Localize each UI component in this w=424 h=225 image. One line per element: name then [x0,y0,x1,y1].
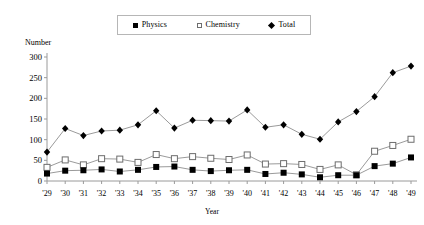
data-point [62,168,68,174]
x-tick-label: '47 [370,189,379,198]
x-tick-label: '33 [115,189,124,198]
x-tick-label: '45 [333,189,342,198]
data-point [190,167,196,173]
x-axis-ticks: '29'30'31'32'33'34'35'36'37'38'39'40'41'… [42,181,415,198]
y-tick-label: 200 [29,93,42,103]
x-tick-label: '42 [279,189,288,198]
data-point [44,164,50,170]
data-point [390,142,396,148]
x-tick-label: '41 [261,189,270,198]
y-tick-label: 100 [29,135,42,145]
data-point [80,162,86,168]
data-point [281,170,287,176]
x-tick-label: '37 [188,189,197,198]
data-point [171,156,177,162]
data-point [281,161,287,167]
data-point [390,161,396,167]
data-point [62,157,68,163]
x-tick-label: '39 [224,189,233,198]
data-point [317,166,323,172]
y-tick-label: 150 [29,114,42,124]
x-tick-label: '40 [242,189,251,198]
x-tick-label: '44 [315,189,324,198]
data-point [99,166,105,172]
x-tick-label: '48 [388,189,397,198]
data-point [208,168,214,174]
x-tick-label: '29 [42,189,51,198]
data-point [44,171,50,177]
y-tick-label: 300 [29,52,42,62]
data-point [153,164,159,170]
x-tick-label: '38 [206,189,215,198]
x-tick-label: '36 [170,189,179,198]
data-point [99,156,105,162]
y-tick-label: 250 [29,73,42,83]
data-point [408,154,414,160]
chart-container: Physics Chemistry Total Number 050100150… [0,0,424,225]
data-point [208,117,214,124]
data-point [226,167,232,173]
data-point [335,162,341,168]
x-tick-label: '35 [151,189,160,198]
x-tick-label: '30 [60,189,69,198]
x-tick-label: '43 [297,189,306,198]
y-tick-label: 50 [34,155,43,165]
data-point [117,156,123,162]
chart-series-group [44,62,414,180]
y-tick-label: 0 [38,176,42,186]
data-point [262,171,268,177]
x-tick-label: '32 [97,189,106,198]
data-point [171,164,177,170]
data-point [190,154,196,160]
data-point [135,167,141,173]
data-point [226,157,232,163]
data-point [135,121,141,128]
data-point [189,117,195,124]
data-point [262,161,268,167]
data-point [80,132,86,139]
data-point [280,121,286,128]
data-point [244,152,250,158]
data-point [244,167,250,173]
data-point [335,172,341,178]
x-tick-label: '31 [79,189,88,198]
data-point [208,155,214,161]
x-tick-label: '46 [352,189,361,198]
data-point [98,127,104,134]
data-point [408,62,414,69]
data-point [353,172,359,178]
data-point [135,159,141,165]
data-point [408,136,414,142]
data-point [80,167,86,173]
data-point [299,171,305,177]
data-point [153,152,159,158]
chart-plot-area: 050100150200250300 '29'30'31'32'33'34'35… [0,0,424,225]
data-point [226,117,232,124]
x-tick-label: '34 [133,189,142,198]
data-point [299,161,305,167]
x-axis-title: Year [0,207,424,216]
series-total [44,62,414,155]
data-point [372,148,378,154]
data-point [353,108,359,115]
data-point [317,174,323,180]
data-point [117,127,123,134]
data-point [372,163,378,169]
x-tick-label: '49 [406,189,415,198]
data-point [299,131,305,138]
data-point [117,168,123,174]
